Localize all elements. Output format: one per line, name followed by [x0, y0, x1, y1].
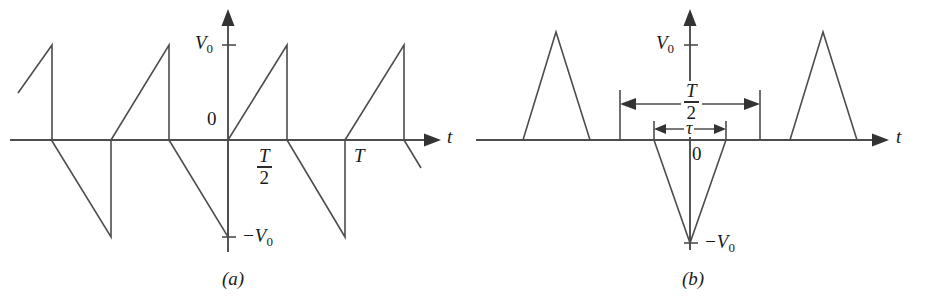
label-neg-v0-b: −V0 — [704, 232, 735, 254]
sawtooth-waveform-a — [18, 45, 421, 237]
figure-root: V0 0 T 2 T −V0 t (a) — [0, 0, 935, 302]
pulse-waveform-b — [478, 32, 870, 243]
t-axis-b — [476, 134, 889, 147]
caption-b: (b) — [682, 268, 704, 290]
caption-a: (a) — [222, 268, 244, 290]
label-tau-b: τ — [684, 119, 694, 137]
axis-label-t-a: t — [447, 127, 452, 146]
label-origin-b: 0 — [692, 144, 702, 163]
t-axis-a — [10, 134, 441, 147]
label-v0-b: V0 — [656, 33, 674, 55]
panel-b-triangular-pulses: V0 T 2 τ 0 −V0 t (b) — [468, 0, 935, 302]
label-origin-a: 0 — [207, 109, 217, 128]
panel-a-plot — [0, 0, 467, 302]
panel-b-plot — [468, 0, 935, 302]
label-t-period-a: T — [354, 146, 365, 165]
panel-a-sawtooth: V0 0 T 2 T −V0 t (a) — [0, 0, 467, 302]
label-v0-a: V0 — [195, 33, 213, 55]
label-t-over-2-a: T 2 — [257, 146, 272, 187]
label-neg-v0-a: −V0 — [242, 226, 273, 248]
label-t-over-2-b: T 2 — [681, 81, 702, 122]
axis-label-t-b: t — [896, 127, 901, 146]
